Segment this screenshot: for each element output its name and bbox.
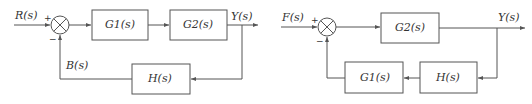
right-block-g1-label: G1(s) (360, 72, 390, 83)
left-block-g2-label: G2(s) (183, 19, 213, 30)
left-plus-sign: + (44, 14, 52, 23)
left-feedback-arrow-to-sum (60, 35, 132, 79)
left-minus-sign: − (49, 35, 57, 44)
right-block-h-label: H(s) (436, 72, 460, 83)
right-output-label: Y(s) (498, 12, 520, 23)
left-block-g1-label: G1(s) (105, 19, 135, 30)
left-block-h-label: H(s) (148, 73, 172, 84)
right-input-label: F(s) (282, 12, 304, 23)
left-input-label: R(s) (15, 10, 38, 21)
right-feedback-arrow-to-sum (327, 37, 345, 78)
right-summing-junction-icon (318, 18, 336, 36)
left-output-label: Y(s) (231, 11, 253, 22)
right-block-g2-label: G2(s) (395, 22, 425, 33)
left-summing-junction-icon (51, 16, 69, 34)
block-diagrams (0, 0, 532, 104)
left-feedback-signal-label: B(s) (66, 60, 88, 71)
right-plus-sign: + (311, 16, 319, 25)
right-minus-sign: − (316, 37, 324, 46)
right-feedback-arrow-to-h (478, 28, 497, 78)
